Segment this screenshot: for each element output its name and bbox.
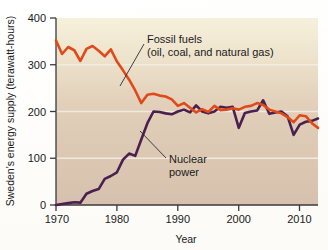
fossil-fuels-annotation-line2: (oil, coal, and natural gas) (147, 46, 274, 58)
chart-canvas: 0 100 200 300 400 1970 1980 1990 2000 20… (0, 0, 328, 250)
x-axis-title: Year (175, 233, 197, 245)
fossil-fuels-annotation-line1: Fossil fuels (147, 33, 203, 45)
x-tick-label-2010: 2010 (287, 213, 311, 225)
y-tick-label-0: 0 (40, 199, 46, 211)
y-tick-label-300: 300 (28, 59, 46, 71)
nuclear-power-annotation-line1: Nuclear (169, 153, 207, 165)
nuclear-power-annotation-line2: power (169, 166, 199, 178)
x-tick-label-2000: 2000 (226, 213, 250, 225)
energy-supply-line-chart: 0 100 200 300 400 1970 1980 1990 2000 20… (0, 0, 328, 250)
x-tick-label-1980: 1980 (105, 213, 129, 225)
x-tick-label-1990: 1990 (166, 213, 190, 225)
y-axis-title: Sweden's energy supply (terawatt-hours) (4, 16, 16, 207)
y-tick-label-200: 200 (28, 106, 46, 118)
y-tick-label-400: 400 (28, 12, 46, 24)
x-tick-label-1970: 1970 (45, 213, 69, 225)
y-tick-label-100: 100 (28, 152, 46, 164)
